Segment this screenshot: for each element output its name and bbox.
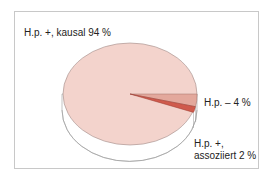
label-hp-negative-text: H.p. – 4 %	[204, 97, 251, 108]
label-kausal-text: H.p. +, kausal 94 %	[24, 27, 111, 38]
label-assoziiert-line2: assoziiert 2 %	[194, 150, 256, 162]
label-hp-negative: H.p. – 4 %	[204, 97, 251, 109]
label-assoziiert: H.p. +, assoziiert 2 %	[194, 138, 256, 162]
label-assoziiert-line1: H.p. +,	[194, 138, 256, 150]
label-kausal: H.p. +, kausal 94 %	[24, 27, 111, 39]
